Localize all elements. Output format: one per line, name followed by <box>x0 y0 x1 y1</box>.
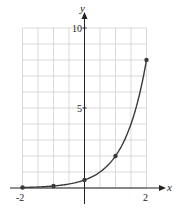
y-axis-label: y <box>79 2 85 14</box>
y-tick-5: 5 <box>77 103 82 114</box>
data-point <box>144 58 148 62</box>
axis-labels: y x 10 5 -2 2 <box>16 2 172 203</box>
data-point <box>113 154 117 158</box>
data-point <box>82 178 86 182</box>
data-point <box>20 185 24 189</box>
exponential-graph: y x 10 5 -2 2 <box>0 0 179 208</box>
data-point <box>51 184 55 188</box>
x-axis-arrow-icon <box>159 185 166 191</box>
x-axis-label: x <box>166 181 172 193</box>
y-tick-10: 10 <box>72 23 82 34</box>
x-tick-2: 2 <box>143 192 148 203</box>
x-tick-neg2: -2 <box>16 192 24 203</box>
